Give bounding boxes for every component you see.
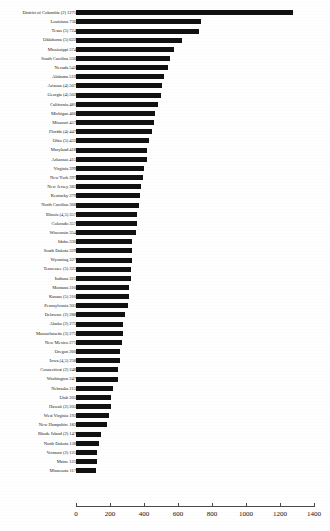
bar-row: New Jersey 382 bbox=[0, 183, 330, 192]
bar-row-label: Iowa (4,5) 258 bbox=[2, 357, 76, 365]
bar-row: Montana 310 bbox=[0, 284, 330, 293]
bar bbox=[76, 148, 147, 153]
bar bbox=[76, 386, 113, 391]
bar-row-label: North Carolina 368 bbox=[2, 201, 76, 209]
bar-row: New Hampshire 182 bbox=[0, 421, 330, 430]
bar bbox=[76, 19, 201, 24]
bar-row-label: Vermont (2) 125 bbox=[2, 449, 76, 457]
bar-row: Louisiana 736 bbox=[0, 18, 330, 27]
bar bbox=[76, 432, 101, 437]
bar bbox=[76, 258, 132, 263]
bar-row-label: Massachusetts (3) 275 bbox=[2, 330, 76, 338]
bar-row: Tennessee (5) 325 bbox=[0, 265, 330, 274]
bar-row-label: Indiana 321 bbox=[2, 275, 76, 283]
bar-row: Mississippi 574 bbox=[0, 46, 330, 55]
bar bbox=[76, 184, 141, 189]
bar-row-label: Maryland 418 bbox=[2, 146, 76, 154]
bar bbox=[76, 193, 140, 198]
bar bbox=[76, 29, 199, 34]
x-axis-tick bbox=[246, 503, 247, 507]
bar bbox=[76, 212, 137, 217]
bar bbox=[76, 267, 131, 272]
bar-row: Iowa (4,5) 258 bbox=[0, 357, 330, 366]
bar bbox=[76, 83, 162, 88]
bar bbox=[76, 331, 123, 336]
bar bbox=[76, 395, 111, 400]
x-axis-line bbox=[76, 506, 314, 507]
bar-row: Washington 247 bbox=[0, 375, 330, 384]
bar bbox=[76, 129, 152, 134]
bar bbox=[76, 10, 293, 15]
bar bbox=[76, 303, 128, 308]
bar-row-label: Hawaii (2) 205 bbox=[2, 403, 76, 411]
bar-row: Florida (4) 447 bbox=[0, 128, 330, 137]
bar-row-label: Connecticut (2) 248 bbox=[2, 366, 76, 374]
bar-row-label: California 481 bbox=[2, 101, 76, 109]
bar-row-label: Georgia (4) 502 bbox=[2, 91, 76, 99]
bar bbox=[76, 47, 174, 52]
bar bbox=[76, 56, 170, 61]
bar bbox=[76, 276, 131, 281]
bar-row-label: Virginia 399 bbox=[2, 165, 76, 173]
bar-row: Hawaii (2) 205 bbox=[0, 403, 330, 412]
bar-row: Missouri 457 bbox=[0, 119, 330, 128]
bar bbox=[76, 74, 164, 79]
bar-row: Kentucky 379 bbox=[0, 192, 330, 201]
bar bbox=[76, 239, 132, 244]
x-axis-tick bbox=[110, 503, 111, 507]
bar-row: South Carolina 550 bbox=[0, 55, 330, 64]
bar-row-label: Michigan 466 bbox=[2, 110, 76, 118]
bar bbox=[76, 404, 111, 409]
bar-row: Kansas (5) 310 bbox=[0, 293, 330, 302]
bar-row-label: Nebraska 215 bbox=[2, 385, 76, 393]
bar bbox=[76, 157, 147, 162]
bar-row-label: Missouri 457 bbox=[2, 119, 76, 127]
bar-row-label: Colorado 357 bbox=[2, 220, 76, 228]
bar-row: Rhode Island (2) 147 bbox=[0, 430, 330, 439]
bar-row: Nevada 542 bbox=[0, 64, 330, 73]
x-axis-tick-label: 1400 bbox=[294, 510, 330, 519]
bar-row-label: South Carolina 550 bbox=[2, 55, 76, 63]
bar bbox=[76, 111, 155, 116]
bar-row: New Mexico 271 bbox=[0, 339, 330, 348]
bar-row: Virginia 399 bbox=[0, 165, 330, 174]
bar-row-label: Idaho 330 bbox=[2, 238, 76, 246]
bar-row: Alabama 519 bbox=[0, 73, 330, 82]
bar-row: Wisconsin 354 bbox=[0, 229, 330, 238]
bar-row: North Carolina 368 bbox=[0, 201, 330, 210]
bar-row: Illinois (4,5) 357 bbox=[0, 211, 330, 220]
bar-row-label: Delaware (2) 288 bbox=[2, 311, 76, 319]
bar-row: Vermont (2) 125 bbox=[0, 449, 330, 458]
bar-row-label: Utah 205 bbox=[2, 394, 76, 402]
bar-row-label: North Dakota 138 bbox=[2, 440, 76, 448]
x-axis-tick bbox=[212, 503, 213, 507]
bar-row-label: South Dakota 329 bbox=[2, 247, 76, 255]
bar bbox=[76, 441, 99, 446]
bar bbox=[76, 413, 109, 418]
bar-row: New York 397 bbox=[0, 174, 330, 183]
bar bbox=[76, 468, 96, 473]
x-axis-tick bbox=[76, 503, 77, 507]
bar-row: Georgia (4) 502 bbox=[0, 91, 330, 100]
bar bbox=[76, 450, 97, 455]
bar-row-label: Nevada 542 bbox=[2, 64, 76, 72]
bar-row: Oklahoma (5) 622 bbox=[0, 36, 330, 45]
bar-row-label: Kansas (5) 310 bbox=[2, 293, 76, 301]
bar-row: Maryland 418 bbox=[0, 146, 330, 155]
bar-row-label: Washington 247 bbox=[2, 375, 76, 383]
bar-row: Nebraska 215 bbox=[0, 385, 330, 394]
bar bbox=[76, 358, 120, 363]
x-axis-tick bbox=[144, 503, 145, 507]
bar-row: Alaska (2) 275 bbox=[0, 320, 330, 329]
bar bbox=[76, 294, 129, 299]
bar bbox=[76, 248, 132, 253]
bar-row-label: Rhode Island (2) 147 bbox=[2, 430, 76, 438]
bar bbox=[76, 102, 158, 107]
bar-row-label: Louisiana 736 bbox=[2, 18, 76, 26]
bar-row: Indiana 321 bbox=[0, 275, 330, 284]
bar-row: Pennsylvania 303 bbox=[0, 302, 330, 311]
bar bbox=[76, 230, 136, 235]
bar-row-label: Florida (4) 447 bbox=[2, 128, 76, 136]
bar-row-label: Wisconsin 354 bbox=[2, 229, 76, 237]
bar-row-label: Mississippi 574 bbox=[2, 46, 76, 54]
